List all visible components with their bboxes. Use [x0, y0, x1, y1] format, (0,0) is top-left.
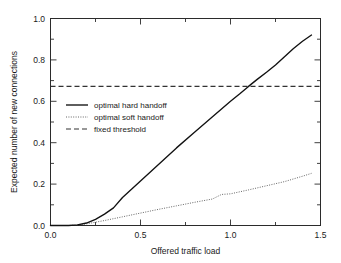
y-tick-label-1: 1.0 [33, 14, 45, 24]
y-axis-ticks [51, 19, 321, 226]
chart-legend: optimal hard handoff optimal soft handof… [66, 101, 168, 134]
series-optimal-hard-handoff [51, 35, 312, 225]
series-optimal-soft-handoff [51, 173, 312, 225]
y-tick-label-0: 0.0 [33, 221, 45, 231]
x-tick-label-1: 1.0 [225, 230, 237, 240]
y-tick-label-08: 0.8 [33, 55, 45, 65]
x-tick-label-15: 1.5 [315, 230, 327, 240]
y-tick-label-06: 0.6 [33, 96, 45, 106]
legend-label-hard: optimal hard handoff [94, 101, 168, 110]
plot-frame [51, 19, 321, 226]
x-tick-label-0: 0.0 [45, 230, 57, 240]
legend-label-threshold: fixed threshold [94, 125, 146, 134]
x-axis-minor-ticks [96, 19, 276, 226]
y-tick-label-02: 0.2 [33, 179, 45, 189]
y-axis-minor-ticks [51, 39, 321, 205]
x-tick-label-05: 0.5 [135, 230, 147, 240]
y-tick-label-04: 0.4 [33, 138, 45, 148]
chart-figure: 1.0 0.8 0.6 0.4 0.2 0.0 0.0 0.5 1.0 1.5 … [0, 0, 341, 263]
legend-label-soft: optimal soft handoff [94, 113, 164, 122]
y-axis-title: Expected number of new connections [9, 51, 19, 193]
x-axis-ticks [51, 19, 321, 226]
line-chart: 1.0 0.8 0.6 0.4 0.2 0.0 0.0 0.5 1.0 1.5 … [0, 0, 341, 263]
x-axis-title: Offered traffic load [151, 246, 221, 256]
